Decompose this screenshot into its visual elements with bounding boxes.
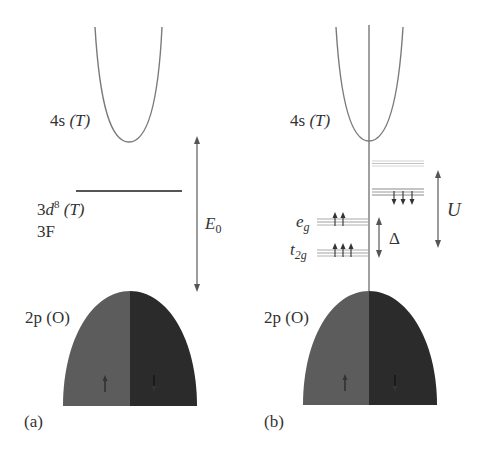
- label-u: U: [447, 200, 461, 219]
- level-minority-occupied: [372, 189, 424, 195]
- band-2p-spin-down-half-b: [369, 291, 437, 405]
- label-term-3f: 3F: [37, 223, 55, 240]
- label-4s-a: 4s (T): [50, 112, 90, 129]
- label-eg: eg: [296, 213, 310, 230]
- caption-b: (b): [264, 413, 284, 430]
- eg-up-spin-arrows: [335, 215, 343, 226]
- band-2p-spin-down-half-a: [130, 291, 197, 406]
- t2g-up-spin-arrows: [335, 246, 351, 257]
- band-2p-spin-up-half-b: [303, 291, 369, 405]
- label-e0: E0: [205, 215, 221, 232]
- label-t2g: t2g: [290, 241, 307, 258]
- label-3d8-a: 3d8 (T): [37, 201, 85, 218]
- caption-a: (a): [24, 413, 43, 430]
- band-2p-spin-up-half-a: [63, 291, 130, 406]
- minority-down-spin-arrows: [394, 191, 412, 202]
- label-4s-b: 4s (T): [290, 112, 330, 129]
- label-delta: Δ: [389, 230, 400, 247]
- label-2p-b: 2p (O): [264, 309, 309, 326]
- band-4s-parabola-a: [95, 27, 162, 142]
- label-2p-a: 2p (O): [25, 309, 70, 326]
- level-minority-empty: [372, 161, 424, 166]
- energy-level-diagram: [0, 0, 488, 451]
- panel-b: [303, 25, 438, 405]
